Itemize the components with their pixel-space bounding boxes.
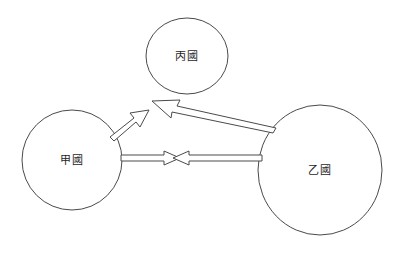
node-label-bing: 丙國 [175,51,199,62]
arrow-yi-to-bing[interactable] [152,100,276,133]
arrow-jia-to-bing[interactable] [110,110,149,141]
arrow-yi-to-jia[interactable] [173,151,262,165]
arrow-jia-to-yi[interactable] [121,151,180,165]
node-label-yi: 乙國 [308,165,332,176]
diagram-graphics [0,0,401,256]
diagram-canvas: 丙國 甲國 乙國 [0,0,401,256]
node-label-jia: 甲國 [60,155,84,166]
